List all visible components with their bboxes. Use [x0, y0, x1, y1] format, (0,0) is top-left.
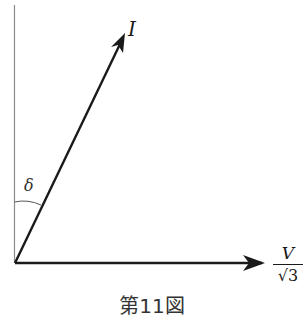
angle-label: δ	[24, 176, 34, 195]
figure-caption: 第11図	[0, 290, 304, 319]
current-label: I	[128, 17, 136, 41]
angle-arc	[15, 201, 42, 205]
voltage-denominator: √3	[272, 267, 304, 285]
fraction-bar	[273, 264, 303, 265]
current-vector	[15, 42, 121, 263]
voltage-numerator: V	[272, 244, 304, 262]
voltage-label: V √3	[272, 244, 304, 285]
